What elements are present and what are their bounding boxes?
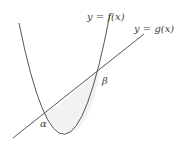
diagram-canvas: y = f(x) y = g(x) β α (0, 0, 179, 147)
label-f: y = f(x) (86, 11, 125, 22)
label-g: y = g(x) (133, 23, 174, 34)
label-beta: β (101, 75, 108, 86)
label-alpha: α (40, 118, 47, 129)
shaded-region (45, 71, 100, 133)
